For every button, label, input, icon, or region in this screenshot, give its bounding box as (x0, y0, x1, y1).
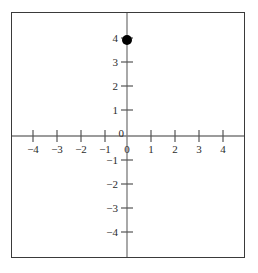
y-tick-label-2: 2 (113, 81, 119, 92)
coordinate-plane-figure: −4 −3 −2 −1 0 1 2 3 4 4 3 2 1 0 −1 −2 −3… (0, 0, 258, 273)
x-tick-label-1: 1 (148, 144, 154, 155)
x-tick-label-2: 2 (172, 144, 178, 155)
y-tick-label-3: 3 (113, 57, 119, 68)
plot-frame (11, 12, 245, 258)
y-tick-label--3: −3 (106, 203, 118, 214)
x-tick-label--4: −4 (27, 144, 39, 155)
y-tick-label-1: 1 (113, 105, 119, 116)
y-tick-label--1: −1 (106, 155, 118, 166)
x-tick-label-4: 4 (220, 144, 226, 155)
y-tick-label--2: −2 (106, 179, 118, 190)
y-tick-label--4: −4 (106, 227, 118, 238)
y-tick-label-0: 0 (119, 128, 125, 139)
x-tick-label-3: 3 (196, 144, 202, 155)
x-tick-label--3: −3 (51, 144, 63, 155)
x-tick-label-0: 0 (124, 144, 130, 155)
x-tick-label--2: −2 (75, 144, 87, 155)
y-tick-label-4: 4 (113, 33, 119, 44)
